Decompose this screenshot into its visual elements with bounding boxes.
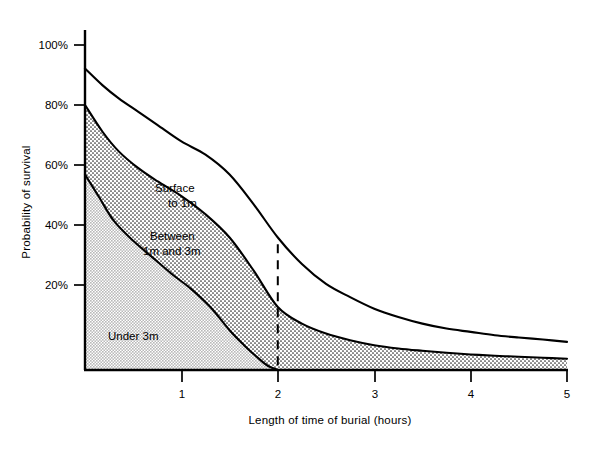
series-label-under-3m: Under 3m (108, 330, 159, 342)
x-tick-label-5: 5 (564, 388, 570, 400)
x-tick-label-1: 1 (179, 388, 185, 400)
x-axis-ticks (182, 370, 567, 382)
y-tick-label-40: 40% (45, 219, 68, 231)
series-label-between-line1: Between (150, 230, 195, 242)
y-axis-title: Probability of survival (20, 112, 32, 292)
y-tick-label-80: 80% (45, 99, 68, 111)
y-tick-label-100: 100% (39, 39, 68, 51)
series-label-between-line2: 1m and 3m (143, 245, 201, 257)
x-tick-label-3: 3 (372, 388, 378, 400)
y-tick-label-20: 20% (45, 279, 68, 291)
survival-probability-chart: 100% 80% 60% 40% 20% 1 2 3 4 5 Surface t… (0, 0, 596, 457)
x-tick-label-2: 2 (275, 388, 281, 400)
y-tick-label-60: 60% (45, 159, 68, 171)
y-axis-ticks (74, 45, 85, 285)
x-axis-title: Length of time of burial (hours) (200, 414, 460, 426)
chart-canvas: 100% 80% 60% 40% 20% 1 2 3 4 5 Surface t… (0, 0, 596, 457)
x-tick-label-4: 4 (468, 388, 475, 400)
series-label-surface-line2: to 1m (168, 197, 197, 209)
series-label-surface-line1: Surface (155, 182, 195, 194)
